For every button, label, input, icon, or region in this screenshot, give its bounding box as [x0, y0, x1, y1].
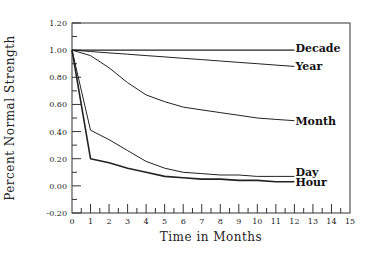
y-tick-label: 1.00 [49, 46, 67, 55]
series-label-month: Month [295, 115, 336, 128]
series-line-month [72, 50, 294, 121]
x-tick-label: 13 [308, 217, 318, 226]
x-tick-label: 4 [144, 217, 149, 226]
x-axis-title: Time in Months [160, 230, 262, 244]
y-tick-label: 0.00 [49, 182, 67, 191]
x-tick-label: 9 [236, 217, 241, 226]
x-tick-label: 10 [252, 217, 262, 226]
x-tick-label: 8 [218, 217, 223, 226]
strength-vs-time-chart: -0.200.000.200.400.600.801.001.20 012345… [0, 0, 373, 258]
x-tick-label: 1 [88, 217, 93, 226]
x-axis-ticks: 0123456789101112131415 [69, 204, 355, 226]
x-tick-label: 2 [107, 217, 112, 226]
x-tick-label: 6 [181, 217, 186, 226]
x-tick-label: 0 [69, 217, 74, 226]
x-tick-label: 11 [271, 217, 281, 226]
series-label-year: Year [294, 60, 322, 73]
series-label-decade: Decade [295, 42, 340, 55]
y-tick-label: 0.60 [49, 100, 67, 109]
y-tick-label: -0.20 [46, 209, 67, 218]
x-tick-label: 3 [125, 217, 130, 226]
y-tick-label: 0.20 [49, 155, 67, 164]
y-tick-label: 1.20 [49, 19, 67, 28]
series-line-hour [72, 50, 294, 182]
y-axis-title: Percent Normal Strength [3, 35, 17, 201]
series-line-year [72, 50, 294, 66]
series-label-hour: Hour [295, 176, 327, 189]
series-labels: DecadeYearMonthDayHour [294, 42, 340, 189]
y-axis-ticks: -0.200.000.200.400.600.801.001.20 [46, 19, 81, 218]
x-tick-label: 12 [289, 217, 299, 226]
series-line-day [72, 50, 294, 176]
x-tick-label: 15 [345, 217, 355, 226]
y-tick-label: 0.40 [49, 128, 67, 137]
x-tick-label: 7 [199, 217, 204, 226]
x-tick-label: 5 [162, 217, 167, 226]
series-lines [72, 50, 294, 182]
y-tick-label: 0.80 [49, 73, 67, 82]
x-tick-label: 14 [326, 217, 336, 226]
